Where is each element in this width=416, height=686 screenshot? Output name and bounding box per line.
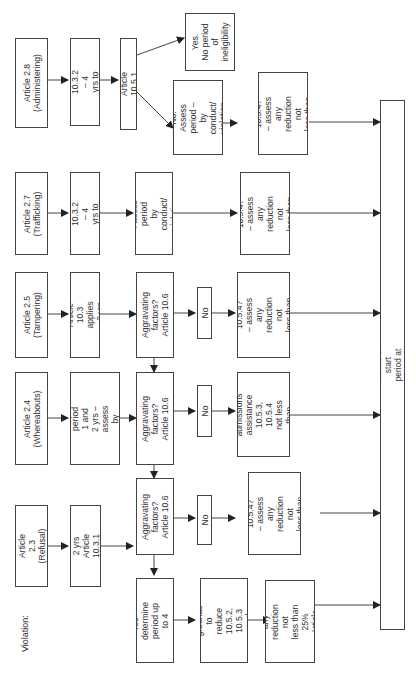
yes-determine-label: Yes – determine period up to 4 yrs [136,601,174,639]
period-whereabouts-box: Article 10.3.3 period 1 and 2 yrs – asse… [70,372,120,465]
article-10-5-1-box: Article 10.5.1 [120,38,137,130]
yes-no-period-label: Yes. No period of ineligibility [190,22,230,61]
whereabouts-result-box: Any grounds to reduce admissions assista… [237,372,290,457]
violation-tampering-label: Article 2.5 (Tampering) [22,292,42,338]
refusal-result-box: Articles 10.5.2, 10.5.3, 10.5.4? – asses… [248,472,301,555]
refusal-result-label: Articles 10.5.2, 10.5.3, 10.5.4? – asses… [248,496,301,531]
article-10-5-1-label: Article 10.5.1 [120,72,137,96]
assess-reduction-label: Assess any reduction not less than 25% A… [265,604,315,639]
period-tampering-box: Article 10.3 applies – 2 yrs [70,272,100,358]
violation-whereabouts-box: Article 2.4 (Whereabouts) [15,372,48,465]
violation-trafficking-label: Article 2.7 (Trafficking) [22,191,42,236]
trafficking-assess-label: Assess period by conduct/ violation [135,197,173,229]
violation-administering-label: Article 2.8 (Administering) [22,54,42,112]
violation-refusal-label: Article 2.3 (Refusal) [17,529,47,564]
aggravating-tampering-label: Aggravating factors? Article 10.6 [140,292,170,338]
assess-reduction-box: Assess any reduction not less than 25% A… [265,580,315,663]
yes-determine-box: Yes – determine period up to 4 yrs [136,578,174,663]
no-whereabouts-box: No [197,385,212,437]
trafficking-result-box: Articles 10.5.2, 10.5.3, 10.5.4? – asses… [240,172,290,255]
aggravating-whereabouts-box: Aggravating factors? Article 10.6 [136,372,174,465]
period-whereabouts-label: Article 10.3.3 period 1 and 2 yrs – asse… [70,405,120,432]
violation-whereabouts-label: Article 2.4 (Whereabouts) [22,390,42,447]
period-refusal-label: 2 yrs Article 10.3.1 [71,534,101,558]
period-refusal-box: 2 yrs Article 10.3.1 [70,505,101,587]
violation-refusal-box: Article 2.3 (Refusal) [15,505,48,587]
violation-trafficking-box: Article 2.7 (Trafficking) [15,172,48,255]
aggravating-whereabouts-label: Aggravating factors? Article 10.6 [140,396,170,442]
no-assess-period-box: No. Assess period – by conduct/ violatio… [173,80,223,155]
period-administering-box: Article 10.3.2 – 4 yrs to life [70,38,100,126]
no-tampering-label: No [200,308,210,319]
no-whereabouts-label: No [200,406,210,417]
period-trafficking-label: Article 10.3.2 – 4 yrs to life [70,202,100,226]
period-tampering-label: Article 10.3 applies – 2 yrs [70,301,100,328]
trafficking-assess-box: Assess period by conduct/ violation [135,172,173,255]
grounds-reduce-box: Any grounds to reduce 10.5.2, 10.5.3 and… [200,578,248,663]
no-refusal-label: No [200,515,210,526]
aggravating-tampering-box: Aggravating factors? Article 10.6 [136,272,174,358]
violation-heading: Violation: [20,615,30,652]
trafficking-result-label: Articles 10.5.2, 10.5.3, 10.5.4? – asses… [240,196,290,231]
no-refusal-box: No [197,495,212,545]
final-outcome-box: Any reason not to disqualify results or … [380,100,405,630]
final-outcome-label: Any reason not to disqualify results or … [380,348,405,383]
yes-no-period-box: Yes. No period of ineligibility [185,13,235,71]
no-assess-period-label: No. Assess period – by conduct/ violatio… [173,101,223,134]
violation-tampering-box: Article 2.5 (Tampering) [15,272,48,358]
period-administering-label: Article 10.3.2 – 4 yrs to life [70,70,100,94]
tampering-result-box: Articles 10.5.2, 10.5.3, 10.5.4? – asses… [237,272,290,358]
whereabouts-result-label: Any grounds to reduce admissions assista… [237,393,290,436]
grounds-reduce-label: Any grounds to reduce 10.5.2, 10.5.3 and… [200,605,248,636]
no-tampering-box: No [197,287,212,339]
aggravating-refusal-label: Aggravating factors? Article 10.6 [140,494,170,540]
administering-result-box: Articles 10.5.2, 10.5.3, 10.5.4? – asses… [258,72,308,155]
administering-result-label: Articles 10.5.2, 10.5.3, 10.5.4? – asses… [258,96,308,131]
tampering-result-label: Articles 10.5.2, 10.5.3, 10.5.4? – asses… [237,297,290,332]
aggravating-refusal-box: Aggravating factors? Article 10.6 [136,478,174,555]
period-trafficking-box: Article 10.3.2 – 4 yrs to life [70,172,100,255]
violation-administering-box: Article 2.8 (Administering) [15,38,48,128]
